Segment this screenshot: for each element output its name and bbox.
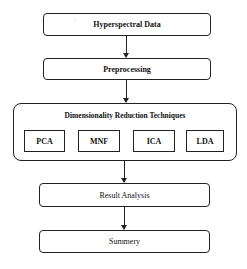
arrow-1 — [126, 36, 127, 57]
technique-label: PCA — [36, 137, 52, 146]
step-label: Preprocessing — [103, 65, 151, 74]
stray-mark: ’ — [74, 17, 76, 25]
step-hyperspectral-data: Hyperspectral Data — [43, 13, 211, 36]
step-preprocessing: Preprocessing — [43, 58, 211, 80]
technique-ica: ICA — [133, 130, 175, 152]
step-summery: Summery — [39, 230, 210, 253]
technique-label: LDA — [197, 137, 214, 146]
technique-label: MNF — [90, 137, 108, 146]
group-title: Dimensionality Reduction Techniques — [14, 111, 236, 120]
arrow-2 — [126, 80, 127, 102]
step-label: Hyperspectral Data — [93, 20, 160, 29]
technique-lda: LDA — [186, 130, 224, 152]
technique-mnf: MNF — [78, 130, 120, 152]
technique-pca: PCA — [24, 130, 65, 152]
arrow-3 — [124, 161, 125, 182]
step-label: Summery — [109, 237, 140, 246]
arrow-4 — [124, 207, 125, 229]
step-result-analysis: Result Analysis — [39, 183, 210, 207]
step-label: Result Analysis — [99, 191, 149, 200]
technique-label: ICA — [147, 137, 162, 146]
